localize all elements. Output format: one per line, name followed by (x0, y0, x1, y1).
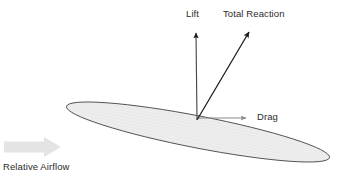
drag-label: Drag (257, 111, 278, 122)
diagram-canvas (0, 0, 342, 184)
relative-airflow-label: Relative Airflow (3, 161, 70, 172)
total-reaction-vector (197, 32, 249, 120)
aerofoil-shape (63, 91, 332, 174)
lift-vector (196, 33, 197, 120)
total-reaction-label: Total Reaction (223, 8, 285, 19)
aerofoil-force-diagram: Lift Total Reaction Drag Relative Airflo… (0, 0, 342, 184)
lift-label: Lift (186, 8, 199, 19)
relative-airflow-arrow (4, 137, 61, 157)
